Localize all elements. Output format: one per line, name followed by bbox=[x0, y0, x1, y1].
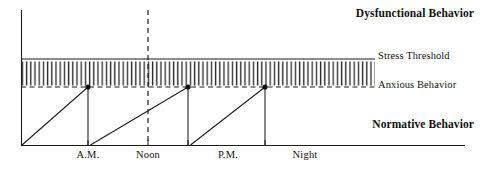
anxious-behavior-label: Anxious Behavior bbox=[378, 80, 456, 91]
peak-marker-1 bbox=[85, 84, 90, 89]
x-tick-label-noon: Noon bbox=[136, 150, 160, 161]
x-tick-label-night: Night bbox=[293, 150, 318, 161]
stress-zone-band bbox=[21, 62, 375, 86]
dysfunctional-behavior-label: Dysfunctional Behavior bbox=[356, 8, 474, 20]
normative-behavior-label: Normative Behavior bbox=[372, 119, 474, 131]
peak-marker-2 bbox=[185, 84, 190, 89]
peak-marker-3 bbox=[262, 84, 267, 89]
stress-threshold-label: Stress Threshold bbox=[378, 51, 450, 62]
x-tick-label-am: A.M. bbox=[77, 150, 100, 161]
x-tick-label-pm: P.M. bbox=[218, 150, 238, 161]
